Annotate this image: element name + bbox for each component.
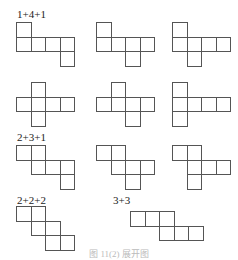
net-square [60,37,76,53]
net-square [172,111,188,127]
net-square [187,97,203,113]
net-square [45,97,61,113]
net-square [140,37,156,53]
net-square [111,145,127,161]
net-square [187,51,203,67]
net-square [60,174,76,190]
net-square [31,206,47,222]
net-square [187,174,203,190]
net-square [111,97,127,113]
net-square [111,37,127,53]
group-label-3-3: 3+3 [113,195,130,206]
net-square [187,145,203,161]
net-square [31,221,47,237]
net-square [125,111,141,127]
net-square [16,145,32,161]
net-square [16,206,32,222]
net-square [31,160,47,176]
group-label-2-3-1: 2+3+1 [17,132,46,143]
net-square [187,37,203,53]
net-square [159,226,175,242]
net-square [96,37,112,53]
net-square [45,37,61,53]
net-square [45,221,61,237]
net-square [111,160,127,176]
net-square [16,22,32,38]
net-square [31,37,47,53]
net-square [172,97,188,113]
net-square [159,211,175,227]
group-label-1-4-1: 1+4+1 [17,9,46,20]
net-square [31,145,47,161]
net-square [172,22,188,38]
net-square [145,211,161,227]
net-square [216,97,232,113]
net-square [96,22,112,38]
net-square [201,37,217,53]
net-square [201,160,217,176]
net-square [125,160,141,176]
net-square [60,160,76,176]
net-square [201,97,217,113]
net-square [125,174,141,190]
net-square [172,37,188,53]
net-square [31,82,47,98]
net-square [216,37,232,53]
net-square [125,97,141,113]
net-square [125,37,141,53]
net-square [31,111,47,127]
net-square [125,51,141,67]
net-square [187,160,203,176]
net-square [60,97,76,113]
net-square [188,226,204,242]
net-square [96,145,112,161]
net-square [172,145,188,161]
net-square [172,82,188,98]
net-square [140,160,156,176]
net-square [16,37,32,53]
net-square [16,97,32,113]
net-square [111,82,127,98]
net-square [130,211,146,227]
net-square [140,97,156,113]
net-square [96,97,112,113]
net-square [31,97,47,113]
net-square [45,160,61,176]
group-label-2-2-2: 2+2+2 [17,195,46,206]
net-square [216,160,232,176]
net-square [174,226,190,242]
net-square [60,51,76,67]
figure-caption: 图 11(2) 展开图 [0,247,238,260]
